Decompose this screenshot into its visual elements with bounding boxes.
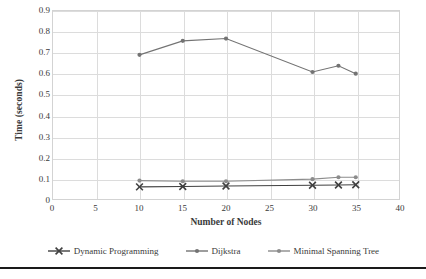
data-point-marker-circle [181, 179, 185, 183]
y-tick-label: 0.4 [24, 111, 50, 120]
y-tick-label: 0.7 [24, 48, 50, 57]
y-tick-label: 0.3 [24, 132, 50, 141]
legend-swatch-circle [185, 246, 209, 256]
legend-swatch-x [47, 246, 71, 256]
y-tick-label: 0.9 [24, 6, 50, 15]
data-point-marker-circle [137, 179, 141, 183]
y-tick-label: 0.5 [24, 90, 50, 99]
line-chart-figure: Time (seconds) 00.10.20.30.40.50.60.70.8… [0, 0, 426, 279]
data-point-marker-circle [181, 39, 185, 43]
data-point-marker-circle [224, 36, 228, 40]
x-tick-label: 25 [250, 203, 290, 214]
plot-area [52, 10, 400, 200]
data-point-marker-circle [336, 175, 340, 179]
x-tick-label: 35 [337, 203, 377, 214]
legend-item-dijkstra[interactable]: Dijkstra [185, 246, 241, 256]
legend-label: Dijkstra [212, 246, 241, 256]
series-line [140, 185, 356, 187]
data-point-marker-circle [336, 64, 340, 68]
data-point-marker-circle [137, 53, 141, 57]
legend-item-dynamic-programming[interactable]: Dynamic Programming [47, 246, 159, 256]
data-point-marker-circle [354, 72, 358, 76]
x-tick-label: 40 [380, 203, 420, 214]
data-point-marker-circle [224, 179, 228, 183]
y-tick-label: 0.8 [24, 27, 50, 36]
data-point-marker-circle [310, 177, 314, 181]
series-dynamic-programming [136, 181, 359, 190]
series-dijkstra [137, 36, 357, 75]
series-line [140, 39, 356, 74]
y-tick-label: 0.2 [24, 153, 50, 162]
data-point-marker-circle [310, 70, 314, 74]
x-axis-tick-labels: 0510152025303540 [52, 203, 400, 217]
bottom-divider [0, 267, 426, 269]
x-tick-label: 15 [163, 203, 203, 214]
x-tick-label: 20 [206, 203, 246, 214]
data-point-marker-circle [354, 175, 358, 179]
y-axis-tick-labels: 00.10.20.30.40.50.60.70.80.9 [24, 10, 50, 200]
chart-legend: Dynamic ProgrammingDijkstraMinimal Spann… [0, 246, 426, 256]
y-axis-title: Time (seconds) [14, 60, 24, 160]
x-tick-label: 10 [119, 203, 159, 214]
series-minimal-spanning-tree [137, 175, 357, 183]
legend-label: Dynamic Programming [74, 246, 159, 256]
legend-item-minimal-spanning-tree[interactable]: Minimal Spanning Tree [267, 246, 380, 256]
data-point-marker-circle [277, 249, 281, 253]
x-tick-label: 30 [293, 203, 333, 214]
series-line [140, 177, 356, 181]
x-tick-label: 0 [32, 203, 72, 214]
series-layer [53, 11, 399, 199]
y-tick-label: 0.6 [24, 69, 50, 78]
legend-swatch-circle [267, 246, 291, 256]
legend-label: Minimal Spanning Tree [294, 246, 380, 256]
y-tick-label: 0.1 [24, 174, 50, 183]
x-axis-title: Number of Nodes [52, 217, 400, 227]
x-tick-label: 5 [76, 203, 116, 214]
data-point-marker-circle [195, 249, 199, 253]
